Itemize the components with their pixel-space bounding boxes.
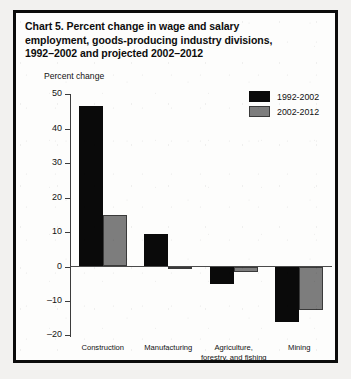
y-axis-tick-label: 40 xyxy=(34,123,62,133)
legend-label-2002-2012: 2002-2012 xyxy=(277,107,319,117)
legend-swatch-icon-light xyxy=(249,106,270,117)
bar-2002-2012-agriculture xyxy=(234,267,258,273)
y-axis-tick xyxy=(65,335,71,336)
y-axis-tick-label: –20 xyxy=(34,329,62,339)
y-axis-tick xyxy=(65,94,71,95)
bar-2002-2012-manufacturing xyxy=(168,267,192,269)
category-label-mining: Mining xyxy=(261,343,339,353)
bar-1992-2002-mining xyxy=(275,267,299,322)
category-label-line: forestry, and fishing xyxy=(195,353,273,363)
bar-2002-2012-construction xyxy=(103,215,127,267)
plot-area: 50403020100–10–20 ConstructionManufactur… xyxy=(16,13,338,363)
bar-1992-2002-agriculture xyxy=(210,267,234,284)
bar-1992-2002-construction xyxy=(79,106,103,266)
y-axis-tick xyxy=(65,129,71,130)
y-axis-tick xyxy=(65,232,71,233)
y-axis-tick xyxy=(65,198,71,199)
y-axis-tick xyxy=(65,163,71,164)
legend-item-2002-2012: 2002-2012 xyxy=(249,106,319,117)
category-label-line: Mining xyxy=(261,343,339,353)
y-axis-tick-label: –10 xyxy=(34,295,62,305)
y-axis-tick-label: 0 xyxy=(34,261,62,271)
chart-figure: Chart 5. Percent change in wage and sala… xyxy=(13,10,338,363)
legend-label-1992-2002: 1992-2002 xyxy=(277,92,319,102)
y-axis-tick xyxy=(65,267,71,268)
bar-1992-2002-manufacturing xyxy=(144,234,168,267)
legend-swatch-icon-dark xyxy=(249,91,270,102)
legend-item-1992-2002: 1992-2002 xyxy=(249,91,319,102)
y-axis-tick-label: 10 xyxy=(34,226,62,236)
bar-2002-2012-mining xyxy=(299,267,323,310)
y-axis-tick xyxy=(65,301,71,302)
y-axis-tick-label: 30 xyxy=(34,157,62,167)
y-axis-tick-label: 20 xyxy=(34,192,62,202)
chart-legend: 1992-2002 2002-2012 xyxy=(249,91,319,121)
y-axis-tick-label: 50 xyxy=(34,88,62,98)
